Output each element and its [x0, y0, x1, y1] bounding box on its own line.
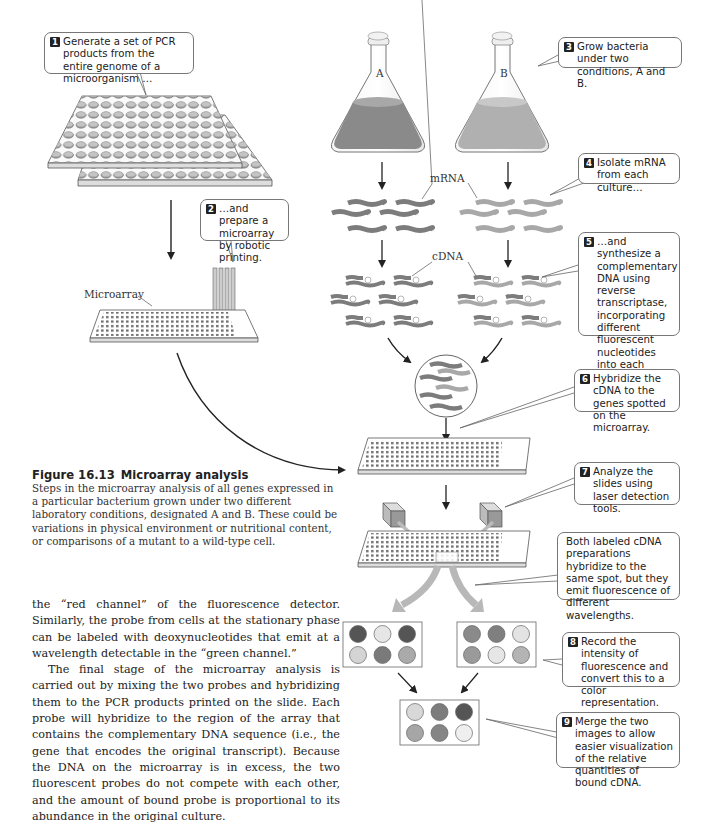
arrow-microarray-to-hybridization: [177, 353, 344, 470]
step-1-callout: 1 Generate a set of PCR products from th…: [44, 32, 194, 74]
fluorescence-spot: [456, 725, 473, 742]
spot-panel-right: [457, 622, 536, 667]
step-2-callout: 2 …and prepare a microarray by robotic p…: [200, 199, 289, 241]
fluorescence-spot: [350, 647, 367, 664]
step-6-callout: 6 Hybridize the cDNA to the genes spotte…: [574, 369, 680, 412]
step-9-callout: 9 Merge the two images to allow easier v…: [556, 712, 680, 768]
figure-caption-text: Steps in the microarray analysis of all …: [32, 482, 342, 548]
fluorescence-spot: [374, 647, 391, 664]
hybridize-note-callout: Both labeled cDNA preparations hybridize…: [557, 532, 680, 600]
step-8-text: Record the intensity of fluorescence and…: [581, 636, 668, 708]
flask-a-label: A: [376, 67, 384, 79]
fluorescence-spot: [399, 647, 416, 664]
step-8-number: 8: [568, 637, 578, 647]
fluorescence-spot: [374, 626, 391, 643]
microarray-label: Microarray: [84, 288, 144, 300]
step-4-number: 4: [584, 158, 594, 168]
cdna-mixture-circle: [415, 355, 477, 417]
spot-panel-left: [343, 622, 422, 667]
cdna-label: cDNA: [432, 250, 463, 262]
fluorescence-spot: [399, 626, 416, 643]
figure-title: Figure 16.13Microarray analysis: [32, 468, 342, 482]
fluorescence-spot: [456, 704, 473, 721]
detection-slide: [358, 531, 530, 567]
microarray-slide: [90, 310, 258, 342]
step-9-number: 9: [562, 717, 572, 727]
fluorescence-spot: [407, 704, 424, 721]
mrna-strands-a: [332, 202, 433, 231]
step-1-number: 1: [50, 37, 60, 47]
fluorescence-spot: [513, 647, 530, 664]
fluorescence-spot: [431, 704, 448, 721]
hybridization-slide: [358, 438, 530, 474]
fluorescence-spot: [488, 647, 505, 664]
flask-b-icon: [455, 32, 548, 152]
printer-pins-icon: [213, 268, 235, 312]
mrna-label: mRNA: [430, 172, 465, 184]
figure-caption: Figure 16.13Microarray analysis Steps in…: [32, 468, 342, 548]
step-5-callout: 5 …and synthesize a complementary DNA us…: [578, 232, 680, 336]
spot-panel-merged: [400, 700, 479, 745]
fluorescence-spot: [350, 626, 367, 643]
paragraph-2: The final stage of the microarray analys…: [32, 662, 340, 825]
step-6-number: 6: [580, 374, 590, 384]
step-7-callout: 7 Analyze the slides using laser detecti…: [574, 462, 680, 505]
figure-number: Figure 16.13: [32, 468, 115, 482]
paragraph-1: the “red channel” of the fluorescence de…: [32, 597, 340, 662]
step-3-number: 3: [564, 42, 574, 52]
flask-b-label: B: [500, 67, 508, 79]
fluorescence-spot: [407, 725, 424, 742]
step-2-number: 2: [206, 204, 216, 214]
step-8-callout: 8 Record the intensity of fluorescence a…: [562, 632, 680, 687]
step-3-callout: 3 Grow bacteria under two conditions, A …: [558, 37, 682, 68]
cdna-duplexes-b: [458, 277, 559, 326]
fluorescence-spot: [488, 626, 505, 643]
mrna-strands-b: [460, 202, 561, 231]
figure-title-text: Microarray analysis: [121, 468, 249, 482]
flask-a-icon: [331, 32, 424, 152]
step-7-number: 7: [580, 467, 590, 477]
step-4-callout: 4 Isolate mRNA from each culture…: [578, 153, 680, 184]
body-text: the “red channel” of the fluorescence de…: [32, 597, 340, 825]
step-5-number: 5: [584, 237, 594, 247]
pcr-plates: [48, 96, 272, 186]
fluorescence-spot: [464, 647, 481, 664]
pcr-plate-front: [48, 96, 242, 168]
fluorescence-spot: [464, 626, 481, 643]
fluorescence-spot: [513, 626, 530, 643]
cdna-duplexes-a: [331, 277, 431, 326]
fluorescence-spot: [431, 725, 448, 742]
